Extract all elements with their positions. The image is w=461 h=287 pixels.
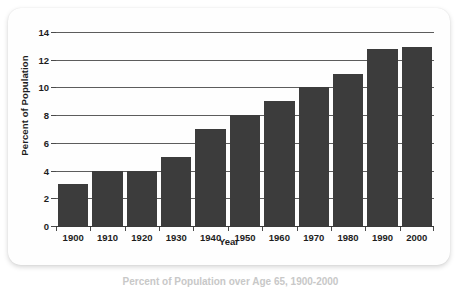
y-axis-tick-mark (51, 143, 56, 144)
x-axis-tick-mark (159, 227, 160, 231)
bar (127, 171, 157, 226)
bar (367, 49, 397, 226)
y-axis-tick-label: 10 (38, 82, 49, 93)
y-axis-tick-mark (51, 60, 56, 61)
bar (230, 115, 260, 226)
bar (161, 157, 191, 226)
y-axis-tick-label: 0 (44, 221, 49, 232)
figure-caption: Percent of Population over Age 65, 1900-… (0, 276, 461, 287)
x-axis-tick-mark (331, 227, 332, 231)
y-axis-tick-mark (51, 32, 56, 33)
plot-area: 02468101214 (56, 32, 434, 226)
bar (299, 87, 329, 226)
y-axis-tick-label: 12 (38, 54, 49, 65)
bar-chart: Percent of Population 02468101214 190019… (8, 8, 450, 265)
y-axis-tick-label: 14 (38, 27, 49, 38)
x-axis-tick-mark (228, 227, 229, 231)
bar (402, 47, 432, 226)
y-axis-tick-mark (51, 171, 56, 172)
bar (264, 101, 294, 226)
y-axis-tick-mark (51, 115, 56, 116)
y-axis-tick-label: 4 (44, 165, 49, 176)
x-axis-tick-mark (193, 227, 194, 231)
x-axis-tick-mark (262, 227, 263, 231)
y-axis-tick-label: 6 (44, 137, 49, 148)
x-axis-tick-mark (433, 227, 434, 231)
bar (195, 129, 225, 226)
bar (92, 171, 122, 226)
x-axis-tick-mark (90, 227, 91, 231)
figure-card: Percent of Population 02468101214 190019… (8, 8, 450, 265)
bar (333, 74, 363, 226)
x-axis-tick-mark (125, 227, 126, 231)
bar (58, 184, 88, 226)
x-axis-tick-mark (400, 227, 401, 231)
y-axis-tick-mark (51, 87, 56, 88)
gridline: 14 (56, 32, 434, 33)
x-axis-title: Year (8, 236, 450, 247)
y-axis-tick-mark (51, 198, 56, 199)
x-axis-tick-mark (56, 227, 57, 231)
y-axis-tick-label: 8 (44, 110, 49, 121)
x-axis-tick-mark (365, 227, 366, 231)
y-axis-title: Percent of Population (19, 36, 30, 176)
y-axis-tick-label: 2 (44, 193, 49, 204)
x-axis-tick-mark (297, 227, 298, 231)
